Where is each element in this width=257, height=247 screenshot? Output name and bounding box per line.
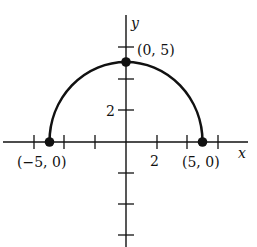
x-axis-label: x bbox=[238, 145, 246, 161]
point-right bbox=[198, 137, 208, 147]
y-axis-label: y bbox=[130, 15, 140, 31]
point-right-label: (5, 0) bbox=[182, 154, 220, 170]
point-left bbox=[45, 137, 55, 147]
point-top bbox=[121, 57, 131, 67]
x-tick-label-2: 2 bbox=[150, 153, 159, 169]
point-left-label: (−5, 0) bbox=[17, 154, 66, 170]
semicircle-graph: y x (0, 5) 2 2 (−5, 0) (5, 0) bbox=[0, 0, 257, 247]
point-top-label: (0, 5) bbox=[137, 42, 175, 58]
y-tick-label-2: 2 bbox=[106, 103, 115, 119]
